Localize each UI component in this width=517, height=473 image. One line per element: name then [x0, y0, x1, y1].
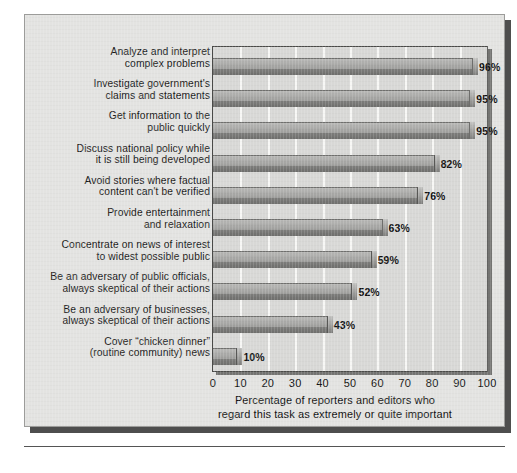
bar-front-face [213, 133, 470, 139]
category-label: Analyze and interpret complex problems [25, 46, 210, 69]
bar-front-face [213, 327, 328, 333]
x-axis-title: Percentage of reporters and editors who … [175, 394, 495, 421]
bar-top-face [213, 187, 422, 198]
bar-value-label: 76% [424, 190, 445, 202]
x-tick-60: 60 [362, 377, 392, 389]
category-label: Discuss national policy while it is stil… [25, 143, 210, 166]
bar-top-face [213, 251, 376, 262]
bar-front-face [213, 198, 418, 204]
x-tick-50: 50 [335, 377, 365, 389]
category-label: Investigate government's claims and stat… [25, 78, 210, 101]
bar-value-label: 10% [243, 351, 264, 363]
bar-front-face [213, 262, 372, 268]
x-tick-20: 20 [253, 377, 283, 389]
bar-front-face [213, 166, 435, 172]
bar-front-face [213, 230, 383, 236]
bar-end-cap [327, 316, 333, 333]
x-tick-80: 80 [417, 377, 447, 389]
x-axis-title-line-1: Percentage of reporters and editors who [175, 394, 495, 408]
bar-end-cap [469, 122, 475, 139]
bar-value-label: 59% [378, 254, 399, 266]
bar-front-face [213, 359, 237, 365]
bar-front-face [213, 101, 470, 107]
x-tick-0: 0 [198, 377, 228, 389]
bar-value-label: 95% [476, 125, 497, 137]
chart-panel: Analyze and interpret complex problemsIn… [24, 14, 505, 427]
figure-root: Analyze and interpret complex problemsIn… [0, 0, 517, 473]
bar-top-face [213, 316, 332, 327]
bar-value-label: 96% [479, 61, 500, 73]
bar-top-face [213, 58, 477, 69]
x-tick-100: 100 [472, 377, 502, 389]
x-tick-70: 70 [390, 377, 420, 389]
bar-top-face [213, 155, 439, 166]
bar-value-label: 82% [441, 158, 462, 170]
category-label: Avoid stories where factual content can'… [25, 175, 210, 198]
category-label: Be an adversary of businesses, always sk… [25, 304, 210, 327]
bar-value-label: 95% [476, 93, 497, 105]
bar-top-face [213, 90, 474, 101]
x-tick-40: 40 [308, 377, 338, 389]
bar-top-face [213, 122, 474, 133]
bar-value-label: 52% [358, 286, 379, 298]
bar-end-cap [472, 58, 478, 75]
bar-front-face [213, 294, 352, 300]
bar-top-face [213, 219, 387, 230]
bar-chart: Analyze and interpret complex problemsIn… [25, 15, 506, 428]
bar-end-cap [371, 251, 377, 268]
category-label: Provide entertainment and relaxation [25, 207, 210, 230]
bar-top-face [213, 283, 356, 294]
bar-end-cap [469, 90, 475, 107]
bar-end-cap [382, 219, 388, 236]
bar-value-label: 63% [389, 222, 410, 234]
x-tick-90: 90 [445, 377, 475, 389]
bar-end-cap [434, 155, 440, 172]
category-label: Get information to the public quickly [25, 110, 210, 133]
bar-value-label: 43% [334, 319, 355, 331]
bottom-rule [24, 446, 505, 447]
category-label: Concentrate on news of interest to wides… [25, 239, 210, 262]
bar-end-cap [236, 348, 242, 365]
category-label: Be an adversary of public officials, alw… [25, 271, 210, 294]
x-tick-10: 10 [225, 377, 255, 389]
bar-end-cap [351, 283, 357, 300]
bar-front-face [213, 69, 473, 75]
x-axis-title-line-2: regard this task as extremely or quite i… [175, 408, 495, 422]
x-tick-30: 30 [280, 377, 310, 389]
category-label: Cover “chicken dinner” (routine communit… [25, 336, 210, 359]
bar-end-cap [417, 187, 423, 204]
